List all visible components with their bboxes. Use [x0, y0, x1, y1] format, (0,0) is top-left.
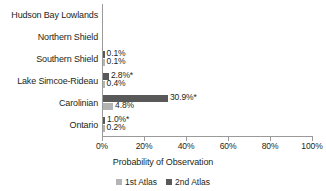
- bar-group: 0.1%0.1%: [103, 48, 326, 70]
- x-axis-tick-label: 0%: [96, 141, 108, 151]
- bar-value-label: 4.8%: [115, 100, 134, 110]
- bar-value-label: 0.2%: [107, 122, 126, 132]
- bar-value-label: 0.4%: [107, 78, 126, 88]
- bar-group: [103, 4, 326, 26]
- bar-chart: Hudson Bay LowlandsNorthern ShieldSouthe…: [0, 0, 326, 191]
- bar-1st-atlas: [103, 103, 113, 110]
- chart-legend: 1st Atlas2nd Atlas: [0, 177, 326, 187]
- x-axis-tick-label: 100%: [301, 141, 322, 151]
- bar-value-label: 0.1%: [107, 56, 126, 66]
- y-axis-category-label: Southern Shield: [0, 48, 98, 70]
- x-axis-title: Probability of Observation: [0, 157, 326, 167]
- bar-2nd-atlas: [103, 95, 168, 102]
- bar-1st-atlas: [103, 125, 105, 132]
- y-axis-category-label: Northern Shield: [0, 26, 98, 48]
- bar-2nd-atlas: [103, 117, 105, 124]
- bar-group: [103, 26, 326, 48]
- chart-category-row: Southern Shield0.1%0.1%: [0, 48, 326, 70]
- legend-item[interactable]: 2nd Atlas: [166, 177, 210, 187]
- bar-1st-atlas: [103, 81, 105, 88]
- bar-2nd-atlas: [103, 51, 105, 58]
- legend-swatch-icon: [166, 179, 172, 185]
- x-axis-tick-label: 60%: [220, 141, 237, 151]
- x-axis-tick-label: 80%: [262, 141, 279, 151]
- chart-category-row: Lake Simcoe-Rideau2.8%*0.4%: [0, 70, 326, 92]
- legend-label: 1st Atlas: [125, 177, 157, 187]
- chart-category-row: Northern Shield: [0, 26, 326, 48]
- chart-category-row: Ontario1.0%*0.2%: [0, 114, 326, 136]
- y-axis-category-label: Lake Simcoe-Rideau: [0, 70, 98, 92]
- bar-1st-atlas: [103, 59, 105, 66]
- legend-item[interactable]: 1st Atlas: [116, 177, 157, 187]
- bar-group: 1.0%*0.2%: [103, 114, 326, 136]
- y-axis-category-label: Carolinian: [0, 92, 98, 114]
- legend-label: 2nd Atlas: [175, 177, 210, 187]
- y-axis-category-label: Ontario: [0, 114, 98, 136]
- bar-group: 30.9%*4.8%: [103, 92, 326, 114]
- x-axis-tick-label: 20%: [136, 141, 153, 151]
- bar-group: 2.8%*0.4%: [103, 70, 326, 92]
- y-axis-category-label: Hudson Bay Lowlands: [0, 4, 98, 26]
- y-axis-line: [102, 4, 103, 137]
- x-axis-line: [102, 136, 313, 137]
- chart-category-row: Carolinian30.9%*4.8%: [0, 92, 326, 114]
- bar-value-label: 30.9%*: [170, 92, 197, 102]
- legend-swatch-icon: [116, 179, 122, 185]
- chart-category-row: Hudson Bay Lowlands: [0, 4, 326, 26]
- x-axis-tick-label: 40%: [178, 141, 195, 151]
